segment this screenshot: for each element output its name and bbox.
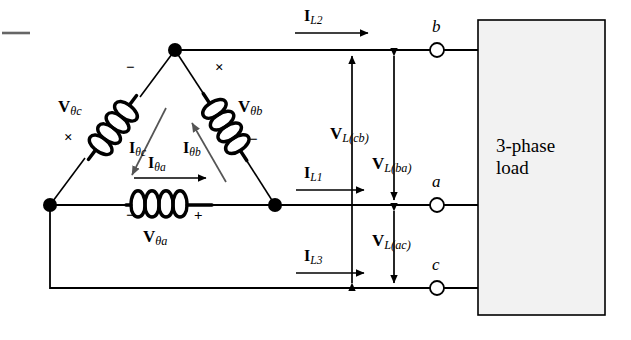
terminal-b-circle[interactable] <box>430 43 444 57</box>
node-left <box>43 198 57 212</box>
polarity-mark-a-negative: − <box>126 208 135 223</box>
load-label-line1: 3-phase <box>496 135 555 157</box>
IL1-sub: L1 <box>310 171 322 183</box>
line-current-label-IL3: IL3 <box>304 248 322 267</box>
load-label-line2: load <box>496 157 555 179</box>
Ithetac-sub: θc <box>135 146 146 158</box>
phase-current-label-Ithetab: Iθb <box>183 140 201 159</box>
line-voltage-label-VLba: VL(ba) <box>372 155 411 175</box>
wire-delta-leg-c-lower <box>50 158 85 205</box>
node-right <box>268 198 282 212</box>
line-current-label-IL2: IL2 <box>304 8 322 27</box>
terminal-label-a: a <box>432 173 441 190</box>
Vthetaa-sub: θa <box>155 234 167 248</box>
phase-current-label-Ithetac: Iθc <box>129 140 146 159</box>
Vthetaa-main: V <box>143 227 155 246</box>
line-voltage-label-VLac: VL(ac) <box>372 232 411 252</box>
circuit-diagram: 3-phase load b a c IL2 IL1 IL3 VL(cb) VL… <box>0 0 631 340</box>
line-voltage-label-VLcb: VL(cb) <box>330 125 369 145</box>
load-box-label: 3-phase load <box>496 135 555 179</box>
phase-current-label-Ithetaa: Iθa <box>148 155 166 174</box>
VLba-sub: L(ba) <box>384 161 411 175</box>
wire-delta-leg-b-upper <box>175 50 205 96</box>
terminal-c-circle[interactable] <box>430 281 444 295</box>
wire-delta-leg-b-lower <box>245 158 275 205</box>
polarity-mark-c-negative: − <box>126 60 135 75</box>
Vthetab-sub: θb <box>250 104 262 118</box>
VLba-main: V <box>372 154 384 173</box>
Vthetab-main: V <box>238 97 250 116</box>
polarity-mark-b-negative: − <box>249 132 258 147</box>
terminal-a-circle[interactable] <box>430 198 444 212</box>
wire-delta-leg-c-upper <box>140 50 175 97</box>
phase-voltage-label-Vthetaa: Vθa <box>143 228 167 248</box>
terminal-label-c: c <box>432 256 440 273</box>
line-current-label-IL1: IL1 <box>304 165 322 184</box>
VLcb-main: V <box>330 124 342 143</box>
polarity-mark-a-positive: + <box>194 208 203 223</box>
phase-voltage-label-Vthetac: Vθc <box>58 98 82 118</box>
VLac-sub: L(ac) <box>384 238 411 252</box>
IL3-sub: L3 <box>310 254 322 266</box>
Vthetac-main: V <box>58 97 70 116</box>
node-top <box>168 43 182 57</box>
Vthetac-sub: θc <box>70 104 81 118</box>
VLac-main: V <box>372 231 384 250</box>
IL2-sub: L2 <box>310 14 322 26</box>
phase-voltage-label-Vthetab: Vθb <box>238 98 262 118</box>
polarity-mark-b-cross: × <box>215 60 224 75</box>
polarity-mark-c-cross: × <box>64 130 73 145</box>
terminal-label-b: b <box>432 18 441 35</box>
Ithetab-sub: θb <box>189 146 200 158</box>
Ithetaa-sub: θa <box>154 161 165 173</box>
VLcb-sub: L(cb) <box>342 131 369 145</box>
